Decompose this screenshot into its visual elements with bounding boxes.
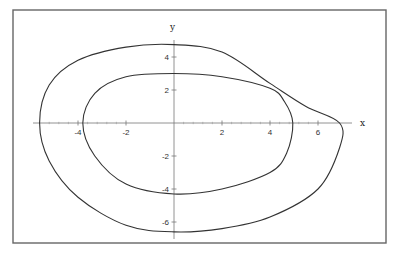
x-tick-label: -4 bbox=[74, 128, 82, 137]
x-axis-label: x bbox=[360, 118, 365, 128]
plot-area: -4-2246 42-2-4-6 x y bbox=[0, 0, 397, 255]
y-axis-label: y bbox=[169, 22, 176, 32]
x-tick-label: -2 bbox=[122, 128, 130, 137]
y-tick-label: -2 bbox=[162, 152, 170, 161]
y-tick-label: 4 bbox=[165, 53, 170, 62]
plot-frame bbox=[13, 10, 386, 243]
x-tick-label: 2 bbox=[220, 128, 225, 137]
x-tick-label: 4 bbox=[268, 128, 273, 137]
x-tick-label: 6 bbox=[316, 128, 321, 137]
y-tick-label: -6 bbox=[162, 218, 170, 227]
y-tick-label: 2 bbox=[165, 86, 170, 95]
inner-curve bbox=[83, 74, 293, 195]
